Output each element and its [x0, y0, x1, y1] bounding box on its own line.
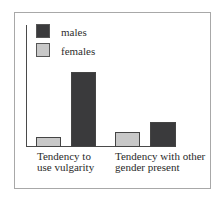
category-label-other-gender-line2: gender present: [115, 162, 179, 173]
legend-label-males: males: [61, 26, 87, 38]
legend-label-females: females: [61, 45, 95, 57]
category-label-vulgarity-line2: use vulgarity: [37, 162, 94, 173]
bar-males-other-gender: [150, 122, 176, 147]
y-axis: [26, 25, 27, 147]
legend-swatch-females: [36, 43, 50, 57]
bar-females-other-gender: [115, 132, 140, 147]
bar-males-vulgarity: [71, 72, 96, 147]
bar-females-vulgarity: [36, 137, 61, 147]
legend-swatch-males: [36, 24, 50, 38]
